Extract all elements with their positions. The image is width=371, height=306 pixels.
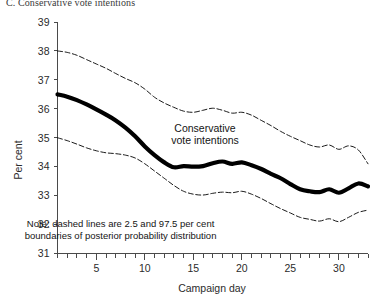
y-tick-label: 37: [38, 74, 50, 86]
y-tick-label: 35: [38, 132, 50, 144]
y-axis-title: Per cent: [12, 140, 24, 179]
x-tick-label: 5: [93, 262, 99, 274]
series-line-boundary: [58, 51, 369, 164]
x-axis-tick-labels: 51015202530: [93, 262, 344, 274]
x-tick-label: 25: [285, 262, 297, 274]
annotation-series-label: Conservativevote intentions: [171, 122, 239, 147]
annotation-note: Note: dashed lines are 2.5 and 97.5 per …: [25, 218, 217, 241]
x-tick-label: 10: [139, 262, 151, 274]
x-tick-label: 20: [236, 262, 248, 274]
y-tick-label: 38: [38, 45, 50, 57]
x-tick-label: 30: [333, 262, 345, 274]
x-tick-label: 15: [188, 262, 200, 274]
y-tick-label: 33: [38, 189, 50, 201]
y-tick-label: 39: [38, 16, 50, 28]
y-tick-label: 36: [38, 103, 50, 115]
series-line-boundary: [58, 138, 369, 222]
chart-annotations: Conservativevote intentionsNote: dashed …: [25, 122, 239, 241]
x-axis-ticks: [58, 254, 369, 260]
x-axis-title: Campaign day: [178, 282, 246, 294]
figure-panel: C. Conservative vote intentions 31323334…: [0, 0, 371, 306]
chart-canvas: 313233343536373839 51015202530 Per cent …: [0, 0, 371, 306]
y-tick-label: 34: [38, 160, 50, 172]
y-tick-label: 31: [38, 247, 50, 259]
